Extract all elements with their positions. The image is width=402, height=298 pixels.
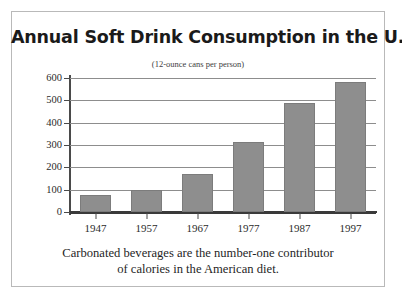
x-tick-label-1967: 1967 [176, 223, 220, 234]
gridline-100 [70, 190, 376, 191]
x-tick-mark-1947 [95, 213, 96, 219]
x-tick-mark-1977 [248, 213, 249, 219]
bar-1967 [182, 174, 213, 212]
y-tick-label-600: 600 [28, 73, 62, 84]
bar-1957 [131, 190, 162, 212]
chart-title: Annual Soft Drink Consumption in the U.S… [11, 27, 385, 47]
plot-area [70, 78, 376, 212]
y-tick-label-200: 200 [28, 162, 62, 173]
chart-caption: Carbonated beverages are the number-one … [18, 245, 378, 277]
chart-figure: Annual Soft Drink Consumption in the U.S… [0, 0, 402, 298]
x-tick-label-1957: 1957 [125, 223, 169, 234]
x-tick-label-1987: 1987 [278, 223, 322, 234]
bar-1987 [284, 103, 315, 212]
chart-subtitle: (12-ounce cans per person) [11, 59, 385, 69]
x-tick-mark-1997 [350, 213, 351, 219]
x-tick-label-1947: 1947 [74, 223, 118, 234]
y-tick-label-400: 400 [28, 117, 62, 128]
x-tick-mark-1987 [299, 213, 300, 219]
caption-line-2: of calories in the American diet. [18, 261, 378, 277]
y-tick-label-0: 0 [28, 207, 62, 218]
y-tick-label-500: 500 [28, 95, 62, 106]
x-tick-marks [70, 213, 376, 221]
gridline-300 [70, 145, 376, 146]
y-tick-label-100: 100 [28, 184, 62, 195]
bar-1947 [80, 195, 111, 212]
gridline-500 [70, 100, 376, 101]
caption-line-1: Carbonated beverages are the number-one … [18, 245, 378, 261]
bar-1977 [233, 142, 264, 212]
y-axis-tick-labels: 0100200300400500600 [28, 78, 62, 212]
x-tick-mark-1967 [197, 213, 198, 219]
gridline-400 [70, 123, 376, 124]
y-tick-label-300: 300 [28, 140, 62, 151]
x-tick-mark-1957 [146, 213, 147, 219]
x-tick-label-1977: 1977 [227, 223, 271, 234]
bar-1997 [335, 82, 366, 212]
gridline-600 [70, 78, 376, 79]
x-axis-tick-labels: 194719571967197719871997 [70, 223, 376, 239]
x-tick-label-1997: 1997 [329, 223, 373, 234]
gridline-200 [70, 167, 376, 168]
